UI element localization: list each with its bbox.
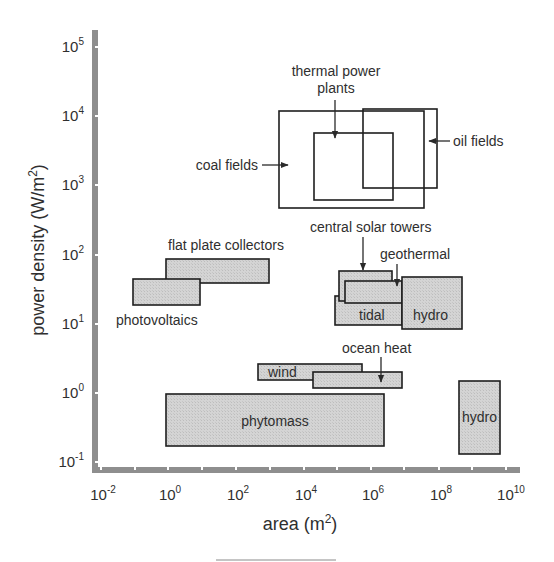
x-tick-label: 102 bbox=[227, 484, 250, 503]
x-tick-label: 104 bbox=[295, 484, 318, 503]
y-axis: 105 104 103 102 101 100 10-1 power densi… bbox=[26, 30, 98, 473]
oil-fields-range bbox=[363, 109, 437, 188]
y-tick-label: 105 bbox=[62, 36, 85, 55]
y-tick-label: 100 bbox=[62, 382, 85, 401]
thermal-label: thermal power bbox=[292, 63, 381, 79]
y-tick-label: 104 bbox=[62, 105, 85, 124]
x-axis-label: area (m2) bbox=[263, 512, 338, 534]
thermal-power-plants-range bbox=[314, 133, 393, 200]
geothermal-range bbox=[345, 281, 402, 303]
y-tick-label: 103 bbox=[62, 174, 85, 193]
coal-fields-range bbox=[279, 111, 424, 208]
thermal-label-2: plants bbox=[317, 80, 354, 96]
x-tick-label: 108 bbox=[430, 484, 453, 503]
x-axis: 10-2 100 102 104 106 108 1010 area (m2) bbox=[90, 467, 525, 534]
power-density-chart: 105 104 103 102 101 100 10-1 power densi… bbox=[0, 0, 554, 562]
phytomass-label: phytomass bbox=[241, 413, 309, 429]
wind-label: wind bbox=[267, 364, 297, 380]
flat-plate-label: flat plate collectors bbox=[168, 237, 284, 253]
x-tick-label: 100 bbox=[159, 484, 182, 503]
y-tick-label: 102 bbox=[62, 244, 85, 263]
ocean-heat-range bbox=[313, 372, 402, 388]
photovoltaics-range bbox=[133, 279, 200, 305]
x-tick-label: 10-2 bbox=[90, 484, 116, 503]
oil-label: oil fields bbox=[453, 133, 504, 149]
x-tick-label: 106 bbox=[362, 484, 385, 503]
x-tick-label: 1010 bbox=[497, 484, 525, 503]
photovoltaics-label: photovoltaics bbox=[116, 312, 198, 328]
geothermal-label: geothermal bbox=[380, 246, 450, 262]
coal-label: coal fields bbox=[196, 157, 258, 173]
ocean-heat-label: ocean heat bbox=[342, 340, 411, 356]
y-tick-label: 10-1 bbox=[58, 451, 84, 470]
central-solar-label: central solar towers bbox=[310, 219, 431, 235]
y-tick-label: 101 bbox=[62, 313, 85, 332]
hydro-low-label: hydro bbox=[462, 409, 497, 425]
hydro-mid-label: hydro bbox=[413, 307, 448, 323]
y-axis-label: power density (W/m2) bbox=[26, 164, 48, 336]
tidal-label: tidal bbox=[359, 307, 385, 323]
